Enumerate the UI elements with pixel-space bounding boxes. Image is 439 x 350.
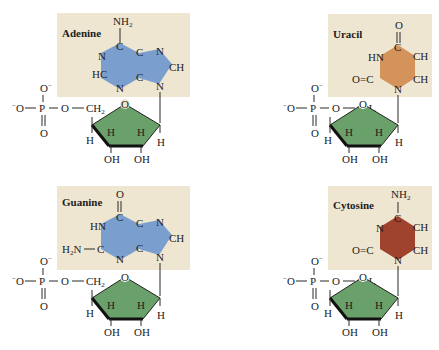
svg-text:H: H [395, 136, 403, 148]
svg-text:O: O [359, 98, 367, 110]
svg-text:O−: O− [40, 82, 52, 94]
svg-text:CH2: CH2 [86, 275, 105, 289]
svg-text:H: H [395, 309, 403, 321]
svg-text:HN: HN [368, 51, 384, 63]
svg-text:P: P [310, 275, 316, 287]
svg-text:O=C: O=C [352, 244, 373, 256]
svg-text:H: H [157, 309, 165, 321]
svg-text:P: P [39, 275, 45, 287]
svg-text:N: N [394, 254, 402, 266]
svg-text:H: H [324, 134, 332, 146]
svg-text:C: C [136, 217, 143, 229]
svg-text:O−: O− [311, 255, 323, 267]
uracil-label: Uracil [333, 28, 362, 40]
svg-text:H: H [86, 307, 94, 319]
svg-text:H: H [375, 126, 383, 138]
svg-text:C: C [394, 41, 401, 53]
svg-text:OH: OH [134, 326, 150, 338]
svg-text:O−: O− [311, 82, 323, 94]
svg-text:O: O [40, 300, 48, 312]
nucleotides-diagram: Adenine NH2 C N HC N C C N CH N O− −O P … [0, 0, 439, 350]
svg-text:C: C [136, 46, 143, 58]
svg-text:N: N [394, 83, 402, 95]
svg-text:O: O [332, 275, 340, 287]
svg-text:CH: CH [413, 221, 428, 233]
svg-text:CH: CH [169, 61, 184, 73]
svg-text:OH: OH [372, 326, 388, 338]
svg-text:O: O [395, 19, 403, 31]
svg-text:H: H [345, 299, 353, 311]
svg-text:O: O [311, 300, 319, 312]
svg-text:OH: OH [134, 153, 150, 165]
adenine-nucleotide: Adenine NH2 C N HC N C C N CH N O− −O P … [12, 13, 190, 165]
svg-text:N: N [116, 253, 124, 265]
svg-text:OH: OH [104, 153, 120, 165]
svg-text:OH: OH [342, 326, 358, 338]
svg-text:O: O [116, 188, 124, 200]
svg-text:H: H [137, 299, 145, 311]
svg-text:N: N [156, 251, 164, 263]
uracil-nucleotide: Uracil O C HN CH CH O=C N O− −O P O CH2 … [283, 14, 432, 165]
cytosine-label: Cytosine [333, 199, 374, 211]
svg-text:HN: HN [90, 220, 106, 232]
svg-text:H: H [375, 299, 383, 311]
svg-text:CH: CH [413, 244, 428, 256]
svg-text:−O: −O [12, 102, 24, 114]
svg-text:P: P [39, 102, 45, 114]
svg-text:O: O [332, 102, 340, 114]
svg-text:N: N [156, 45, 164, 57]
svg-text:C: C [136, 71, 143, 83]
svg-text:O: O [61, 275, 69, 287]
svg-text:C: C [116, 40, 123, 52]
svg-text:O: O [311, 127, 319, 139]
adenine-label: Adenine [62, 27, 101, 39]
svg-text:H: H [137, 126, 145, 138]
svg-text:P: P [310, 102, 316, 114]
svg-text:−O: −O [283, 102, 295, 114]
svg-text:HC: HC [92, 68, 107, 80]
svg-text:O: O [40, 127, 48, 139]
guanine-label: Guanine [62, 196, 102, 208]
svg-text:O: O [359, 271, 367, 283]
svg-text:H: H [107, 126, 115, 138]
svg-text:−O: −O [283, 275, 295, 287]
svg-text:CH: CH [413, 73, 428, 85]
svg-text:O=C: O=C [352, 73, 373, 85]
svg-text:CH: CH [413, 50, 428, 62]
svg-text:H: H [86, 134, 94, 146]
svg-text:C: C [394, 212, 401, 224]
svg-text:O: O [121, 98, 129, 110]
svg-text:O−: O− [40, 255, 52, 267]
svg-text:H: H [107, 299, 115, 311]
svg-text:C: C [116, 211, 123, 223]
svg-text:OH: OH [372, 153, 388, 165]
svg-text:N: N [376, 222, 384, 234]
svg-text:H: H [345, 126, 353, 138]
svg-text:O: O [121, 271, 129, 283]
svg-text:CH2: CH2 [86, 102, 105, 116]
svg-text:C: C [136, 242, 143, 254]
svg-text:N: N [116, 82, 124, 94]
svg-text:O: O [61, 102, 69, 114]
svg-text:CH: CH [169, 232, 184, 244]
svg-text:N: N [156, 216, 164, 228]
svg-text:N: N [98, 50, 106, 62]
svg-text:C: C [97, 243, 104, 255]
svg-text:H: H [157, 136, 165, 148]
guanine-nucleotide: Guanine O C HN H2N C N C C N CH N O− −O … [12, 186, 190, 338]
cytosine-nucleotide: Cytosine NH2 C N CH CH O=C N O− −O P O C… [283, 186, 432, 338]
svg-text:−O: −O [12, 275, 24, 287]
svg-text:H: H [324, 307, 332, 319]
svg-text:OH: OH [104, 326, 120, 338]
svg-text:OH: OH [342, 153, 358, 165]
svg-text:N: N [156, 80, 164, 92]
